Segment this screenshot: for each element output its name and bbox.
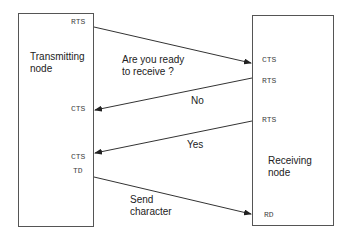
arrow-request: [94, 27, 251, 63]
arrow-yes: [95, 121, 252, 153]
arrow-no: [95, 78, 252, 110]
arrow-send: [94, 177, 251, 214]
arrows-layer: [0, 0, 347, 239]
